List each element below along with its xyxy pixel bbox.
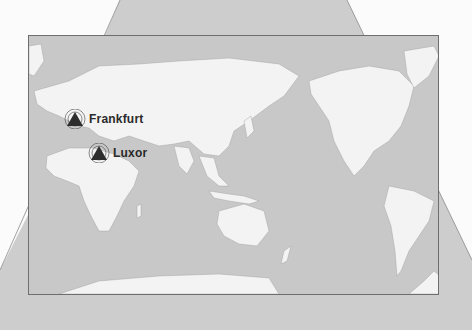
marker-label: Luxor <box>113 146 147 160</box>
marker-frankfurt[interactable]: Frankfurt <box>63 109 143 129</box>
radar-pyramid-icon <box>87 143 111 163</box>
radar-pyramid-icon <box>63 109 87 129</box>
land-masses <box>29 36 439 295</box>
marker-luxor[interactable]: Luxor <box>87 143 147 163</box>
world-map[interactable]: Frankfurt Luxor <box>28 35 439 295</box>
marker-label: Frankfurt <box>89 112 143 126</box>
